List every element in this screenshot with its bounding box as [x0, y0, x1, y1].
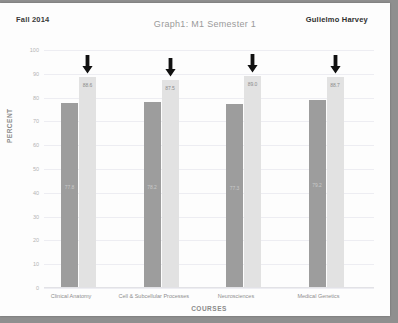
y-axis-title: PERCENT	[6, 108, 13, 143]
bar-value-label: 77.8	[61, 184, 78, 190]
bar-series-1-dark[interactable]: 77.3	[226, 104, 243, 288]
bar-value-label: 88.7	[327, 82, 344, 88]
bar-series-2-light[interactable]: 87.5	[162, 80, 179, 288]
x-axis-tick-label: Neurosciences	[201, 293, 271, 299]
y-axis-tick-label: 30	[33, 214, 39, 220]
y-axis-tick-label: 0	[36, 285, 39, 291]
bar-group: 78.287.5Cell & Subcellular Processes	[137, 50, 220, 288]
bar-series-1-dark[interactable]: 77.8	[61, 103, 78, 288]
x-axis-title: COURSES	[44, 305, 374, 312]
bar-value-label: 88.6	[79, 82, 96, 88]
y-axis-tick-label: 80	[33, 95, 39, 101]
bar-group: 77.888.6Clinical Anatomy	[54, 50, 137, 288]
y-axis-tick-label: 100	[30, 47, 39, 53]
bar-series-2-light[interactable]: 89.0	[244, 76, 261, 288]
x-axis-tick-label: Clinical Anatomy	[36, 293, 106, 299]
y-axis-tick-label: 10	[33, 261, 39, 267]
down-arrow-icon	[162, 58, 179, 77]
down-arrow-icon	[244, 54, 261, 73]
y-axis-tick-label: 90	[33, 71, 39, 77]
plot-area: 1009080706050403020100 77.888.6Clinical …	[44, 50, 374, 288]
y-axis-tick-label: 60	[33, 142, 39, 148]
bar-value-label: 87.5	[162, 85, 179, 91]
bar-value-label: 79.2	[309, 182, 326, 188]
y-axis-tick-label: 50	[33, 166, 39, 172]
bar-series-1-dark[interactable]: 78.2	[144, 102, 161, 288]
bar-value-label: 77.3	[226, 185, 243, 191]
y-axis-tick-label: 20	[33, 237, 39, 243]
header-author-name: Gulielmo Harvey	[306, 15, 368, 24]
x-axis-tick-label: Cell & Subcellular Processes	[119, 293, 189, 299]
y-axis-tick-label: 70	[33, 118, 39, 124]
chart-page: Fall 2014 Graph1: M1 Semester 1 Gulielmo…	[0, 3, 390, 316]
bar-series-2-light[interactable]: 88.6	[79, 77, 96, 288]
bar-group: 79.288.7Medical Genetics	[302, 50, 385, 288]
bar-series-2-light[interactable]: 88.7	[327, 77, 344, 288]
x-axis-tick-label: Medical Genetics	[284, 293, 354, 299]
gridline: 0	[44, 288, 374, 289]
bar-group: 77.389.0Neurosciences	[219, 50, 302, 288]
down-arrow-icon	[79, 55, 96, 74]
y-axis-tick-label: 40	[33, 190, 39, 196]
x-axis-line	[44, 287, 374, 288]
bar-value-label: 89.0	[244, 81, 261, 87]
bar-value-label: 78.2	[144, 184, 161, 190]
down-arrow-icon	[327, 55, 344, 74]
bar-series-1-dark[interactable]: 79.2	[309, 100, 326, 288]
